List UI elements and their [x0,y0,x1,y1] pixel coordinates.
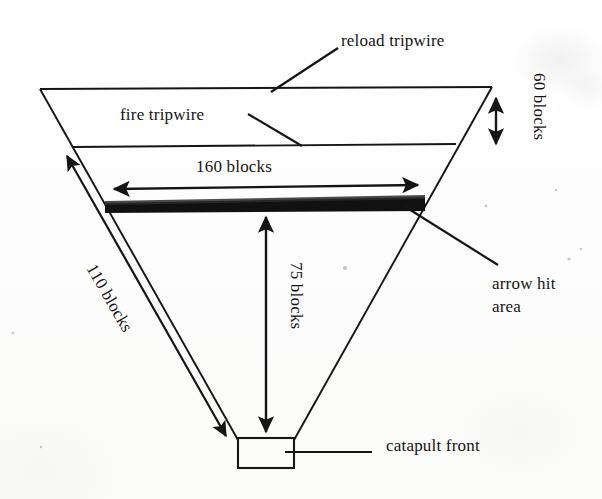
arrow-hit-area-bar [105,195,425,213]
label-arrow-hit-area-line1: arrow hit [492,274,556,293]
fire-tripwire-line [73,144,456,147]
label-160-blocks: 160 blocks [196,157,272,176]
catapult-diagram: 160 blocks 60 blocks 75 blocks 110 block… [0,0,602,499]
label-110-blocks: 110 blocks [83,261,137,336]
label-75-blocks: 75 blocks [287,262,306,329]
dimension-arrow-110 [67,156,226,436]
right-slant-edge [294,87,492,440]
leader-arrow-hit-area [404,206,498,265]
reload-tripwire-line [40,87,492,89]
leader-reload-tripwire [271,48,338,92]
leader-fire-tripwire [248,114,302,146]
left-slant-edge [40,89,238,440]
dimension-arrow-160 [114,185,418,189]
label-fire-tripwire: fire tripwire [120,105,204,124]
label-60-blocks: 60 blocks [530,73,549,140]
diagram-page: 160 blocks 60 blocks 75 blocks 110 block… [0,0,602,499]
label-reload-tripwire: reload tripwire [341,31,445,50]
label-catapult-front: catapult front [386,436,480,455]
label-arrow-hit-area-line2: area [492,297,521,316]
